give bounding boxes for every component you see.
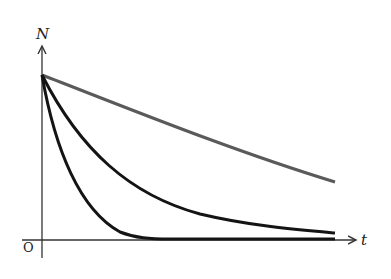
x-axis-label: t	[361, 231, 368, 249]
y-axis-label: N	[35, 25, 50, 43]
curve-slow-decay	[42, 75, 335, 182]
origin-label: O	[23, 240, 34, 255]
decay-diagram: N t O	[0, 0, 391, 279]
curve-medium-decay	[42, 75, 335, 233]
curve-fast-decay	[42, 75, 335, 239]
